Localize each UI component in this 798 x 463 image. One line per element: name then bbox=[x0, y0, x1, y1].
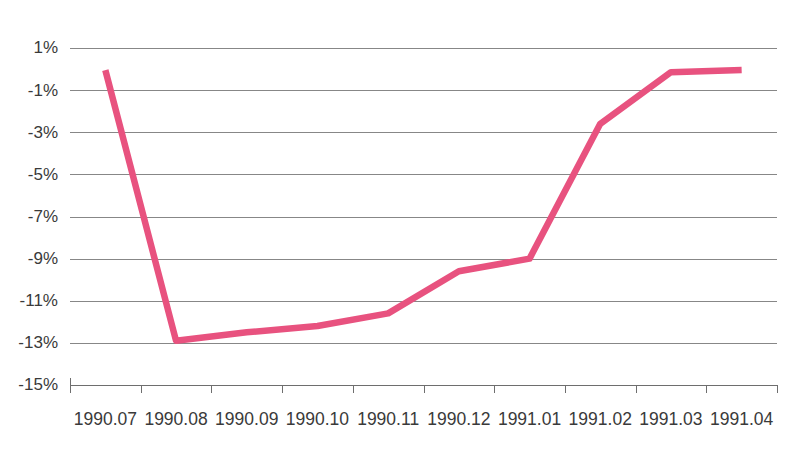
line-chart-figure: 1%-1%-3%-5%-7%-9%-11%-13%-15% 1990.07199… bbox=[0, 0, 798, 463]
x-axis-tick-label: 1990.10 bbox=[286, 409, 350, 429]
chart-canvas: 1%-1%-3%-5%-7%-9%-11%-13%-15% 1990.07199… bbox=[0, 0, 798, 463]
x-axis-tick-label: 1991.04 bbox=[710, 409, 774, 429]
x-axis-tick-label: 1991.01 bbox=[498, 409, 561, 429]
y-axis-tick-label: -7% bbox=[28, 207, 58, 226]
x-axis-tick-label: 1991.03 bbox=[639, 409, 702, 429]
x-axis-tick-label: 1990.07 bbox=[74, 409, 137, 429]
x-axis-tick-label: 1990.08 bbox=[144, 409, 207, 429]
x-axis-tick-label: 1990.12 bbox=[427, 409, 490, 429]
y-axis-tick-label: -5% bbox=[28, 165, 58, 184]
y-axis-tick-label: -1% bbox=[28, 81, 58, 100]
y-axis-tick-label: 1% bbox=[33, 38, 58, 57]
y-axis-tick-label: -3% bbox=[28, 123, 58, 142]
y-axis-tick-label: -9% bbox=[28, 249, 58, 268]
x-axis-tick-label: 1990.09 bbox=[215, 409, 278, 429]
y-axis-tick-label: -13% bbox=[18, 333, 58, 352]
y-axis-tick-label: -15% bbox=[18, 375, 58, 394]
x-axis-tick-label: 1991.02 bbox=[569, 409, 632, 429]
x-axis-tick-label: 1990.11 bbox=[357, 409, 419, 429]
y-axis-tick-label: -11% bbox=[20, 291, 58, 310]
